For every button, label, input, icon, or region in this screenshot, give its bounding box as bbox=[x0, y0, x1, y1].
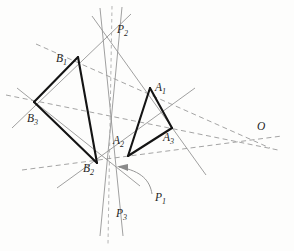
arrow-head bbox=[117, 164, 128, 171]
segment-a1-a2 bbox=[128, 88, 150, 156]
annotation-arrow-p1 bbox=[117, 164, 152, 194]
triangle-B bbox=[34, 57, 97, 163]
label-O: O bbox=[257, 120, 266, 132]
ray-b1-a1-o bbox=[36, 44, 270, 148]
triangle-A bbox=[128, 88, 172, 156]
label-B1: B1 bbox=[56, 52, 67, 67]
label-A3: A3 bbox=[162, 131, 174, 146]
arrow-curve bbox=[119, 167, 152, 194]
label-B3: B3 bbox=[27, 112, 38, 127]
label-B2: B2 bbox=[83, 162, 94, 177]
geometry-canvas: B1 P2 A1 B3 A2 A3 O B2 P1 bbox=[0, 0, 294, 251]
point-labels: B1 P2 A1 B3 A2 A3 O B2 P1 bbox=[27, 23, 266, 222]
label-P1: P1 bbox=[154, 191, 166, 206]
segment-a1-a3 bbox=[150, 88, 172, 128]
label-A1: A1 bbox=[154, 81, 166, 96]
geometry-figure: B1 P2 A1 B3 A2 A3 O B2 P1 bbox=[0, 0, 294, 251]
label-P2: P2 bbox=[116, 23, 128, 38]
line-b1b3-extended bbox=[12, 14, 131, 128]
line-a3a2-extended bbox=[57, 88, 195, 188]
